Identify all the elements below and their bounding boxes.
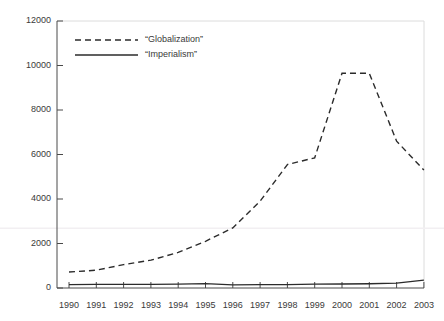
y-tick-label-8000: 8000 [6, 104, 51, 114]
y-tick-label-6000: 6000 [6, 149, 51, 159]
chart-container: 12000 10000 8000 6000 4000 2000 0 1990 1… [0, 0, 444, 321]
x-tick-label-1992: 1992 [110, 300, 137, 310]
legend-label-imperialism: “Imperialism” [145, 49, 197, 59]
y-tick-label-2000: 2000 [6, 238, 51, 248]
x-tick-label-1995: 1995 [192, 300, 219, 310]
x-tick-label-1999: 1999 [301, 300, 328, 310]
x-tick-label-1990: 1990 [56, 300, 83, 310]
legend-label-globalization: “Globalization” [145, 34, 203, 44]
y-tick-label-12000: 12000 [6, 15, 51, 25]
series-line-imperialism [69, 280, 424, 285]
chart-plot-area [0, 0, 444, 321]
x-tick-label-2002: 2002 [383, 300, 410, 310]
x-tick-label-1991: 1991 [83, 300, 110, 310]
y-tick-label-0: 0 [6, 282, 51, 292]
y-tick-label-10000: 10000 [6, 60, 51, 70]
series-line-globalization [69, 73, 424, 272]
x-tick-label-1998: 1998 [274, 300, 301, 310]
x-tick-label-1996: 1996 [219, 300, 246, 310]
x-tick-label-1994: 1994 [165, 300, 192, 310]
y-tick-label-4000: 4000 [6, 193, 51, 203]
x-tick-label-2001: 2001 [356, 300, 383, 310]
x-tick-label-2003: 2003 [410, 300, 437, 310]
x-tick-label-2000: 2000 [329, 300, 356, 310]
y-axis-ticks [57, 21, 63, 288]
x-tick-label-1997: 1997 [247, 300, 274, 310]
x-tick-label-1993: 1993 [137, 300, 164, 310]
